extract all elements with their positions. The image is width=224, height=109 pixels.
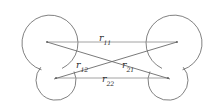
label-r11-sub: 11 [104, 39, 111, 46]
right-molecule [146, 15, 202, 100]
right-small-site-vertex [167, 77, 169, 79]
label-r22: r22 [102, 69, 114, 87]
label-r11: r11 [99, 28, 111, 46]
label-r12-sub: 12 [81, 66, 88, 73]
left-small-site-vertex [55, 77, 57, 79]
figure-canvas: r11 r12 r21 r22 [0, 0, 224, 109]
label-r22-sub: 22 [107, 80, 114, 87]
right-large-site-vertex [176, 41, 178, 43]
label-r12: r12 [76, 55, 88, 73]
label-r21-sub: 21 [127, 66, 134, 73]
left-large-site-vertex [46, 41, 48, 43]
left-small-site-outline [36, 67, 76, 100]
label-r21: r21 [122, 55, 134, 73]
left-molecule [22, 15, 78, 100]
right-small-site-outline [148, 67, 188, 100]
diagram-svg [0, 0, 224, 109]
